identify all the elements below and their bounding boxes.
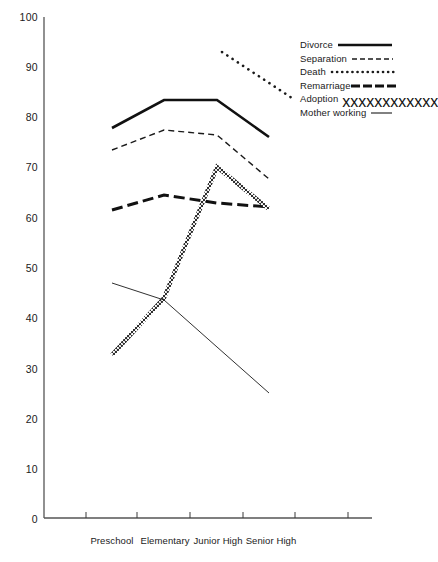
dotted-line-swatch — [330, 66, 396, 77]
series-line-mother-working — [112, 283, 269, 393]
legend-label: Divorce — [300, 39, 333, 50]
series-line-divorce — [112, 100, 269, 137]
legend-label: Adoption — [300, 93, 338, 104]
dashed-thick-line-swatch — [351, 80, 396, 91]
legend-label: Remarriage — [300, 80, 351, 91]
dashed-thin-line-swatch — [351, 53, 394, 64]
chart-legend: Divorce Separation Death Remarriage Adop — [300, 38, 415, 119]
legend-label: Death — [300, 66, 326, 77]
solid-thick-line-swatch — [337, 39, 393, 50]
series-line-remarriage — [112, 195, 269, 210]
x-hatch-line-swatch: xxxxxxxxxxxx — [342, 93, 438, 104]
legend-label: Separation — [300, 53, 347, 64]
legend-item-divorce: Divorce — [300, 38, 415, 51]
legend-item-death: Death — [300, 65, 415, 78]
series-line-death — [222, 52, 295, 100]
solid-thin-line-swatch — [370, 107, 393, 118]
series-line-separation — [112, 130, 269, 179]
series-line-adoption — [112, 167, 269, 355]
legend-item-remarriage: Remarriage — [300, 79, 415, 92]
x-axis-ticks — [86, 512, 348, 518]
legend-item-separation: Separation — [300, 52, 415, 65]
legend-item-adoption: Adoption xxxxxxxxxxxx — [300, 92, 415, 105]
